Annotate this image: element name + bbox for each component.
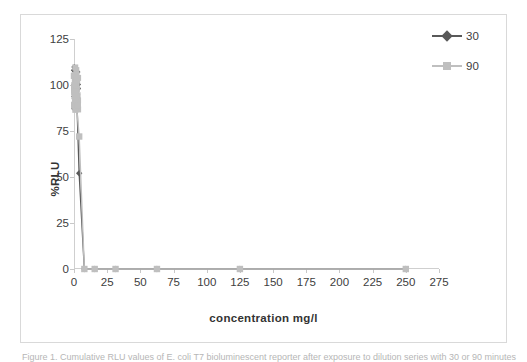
series-90 [71, 64, 409, 272]
square-data-marker [72, 96, 78, 102]
square-data-marker [75, 103, 81, 109]
diamond-data-marker [76, 170, 82, 176]
square-data-marker [403, 266, 409, 272]
series-layer [74, 39, 459, 281]
series-line [74, 76, 406, 269]
legend-label-30: 30 [462, 30, 479, 42]
series-30 [71, 64, 409, 272]
square-data-marker [237, 266, 243, 272]
x-axis-label: concentration mg/l [21, 312, 506, 324]
y-tick-label: 50 [56, 171, 69, 183]
y-tick-label: 75 [56, 125, 69, 137]
y-tick-label: 25 [56, 217, 69, 229]
square-data-marker [154, 266, 160, 272]
figure-caption: Figure 1. Cumulative RLU values of E. co… [22, 352, 522, 362]
y-tick-label: 0 [63, 263, 69, 275]
square-data-marker [92, 266, 98, 272]
square-data-marker [112, 266, 118, 272]
y-tick-label: 125 [50, 33, 69, 45]
square-data-marker [81, 266, 87, 272]
series-line [74, 70, 406, 269]
square-data-marker [76, 133, 82, 139]
y-tick-label: 100 [50, 79, 69, 91]
square-data-marker [72, 88, 78, 94]
plot-area: 0255075100125 02550751001251501752002252… [74, 39, 439, 269]
chart-figure: 30 90 %RLU concentration mg/l 0255075100… [20, 14, 507, 343]
square-data-marker [72, 64, 78, 70]
legend-label-90: 90 [462, 60, 479, 72]
